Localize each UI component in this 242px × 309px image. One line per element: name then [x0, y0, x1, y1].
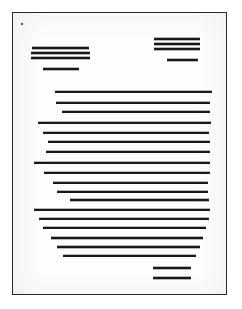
scanned-page-sheet — [12, 12, 227, 295]
text-line — [153, 267, 191, 269]
text-line — [153, 277, 191, 279]
footer-block — [13, 13, 226, 294]
screenshot-root — [0, 0, 242, 309]
